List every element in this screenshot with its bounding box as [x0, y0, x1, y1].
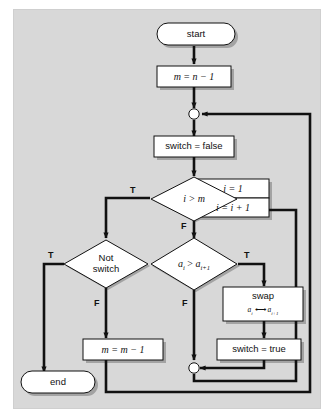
node-init-m — [157, 66, 231, 87]
node-start — [157, 23, 235, 45]
edge-label-not-switch-false: F — [94, 298, 100, 308]
edge-label-i-gt-m-false: F — [181, 221, 187, 231]
node-switch-true — [217, 339, 301, 360]
node-dec-m — [83, 339, 163, 360]
flowchart-canvas — [0, 0, 334, 418]
node-swap — [223, 287, 303, 321]
node-cond-compare — [151, 238, 237, 290]
node-merge-bottom — [189, 363, 199, 373]
flowchart-diagram: start m = n − 1 switch = false i > m i =… — [0, 0, 334, 418]
edge-label-i-gt-m-true: T — [130, 185, 136, 195]
node-cond-not-switch — [64, 240, 148, 288]
node-end — [21, 371, 95, 393]
edge-label-compare-true: T — [244, 250, 250, 260]
edge-label-not-switch-true: T — [48, 250, 54, 260]
node-switch-false — [154, 136, 234, 157]
edge-label-compare-false: F — [182, 298, 188, 308]
node-merge-top — [189, 109, 199, 119]
